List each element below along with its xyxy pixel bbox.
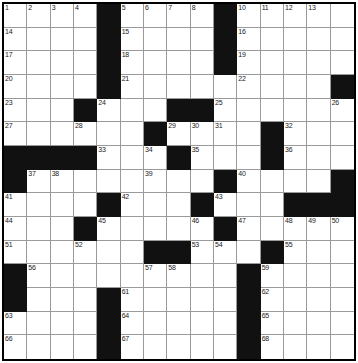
grid-letter-cell[interactable] [237, 241, 260, 265]
grid-letter-cell[interactable] [167, 51, 190, 75]
grid-letter-cell[interactable]: 31 [214, 122, 237, 146]
grid-letter-cell[interactable]: 68 [261, 335, 284, 359]
grid-letter-cell[interactable] [51, 28, 74, 52]
grid-letter-cell[interactable]: 30 [191, 122, 214, 146]
grid-letter-cell[interactable] [74, 335, 97, 359]
grid-letter-cell[interactable]: 13 [307, 4, 330, 28]
grid-letter-cell[interactable] [27, 28, 50, 52]
grid-letter-cell[interactable] [51, 99, 74, 123]
grid-letter-cell[interactable]: 43 [214, 193, 237, 217]
grid-letter-cell[interactable]: 19 [237, 51, 260, 75]
grid-letter-cell[interactable]: 22 [237, 75, 260, 99]
grid-letter-cell[interactable] [27, 335, 50, 359]
grid-letter-cell[interactable]: 44 [4, 217, 27, 241]
grid-letter-cell[interactable] [331, 146, 354, 170]
grid-letter-cell[interactable]: 11 [261, 4, 284, 28]
grid-letter-cell[interactable] [261, 193, 284, 217]
grid-letter-cell[interactable]: 16 [237, 28, 260, 52]
grid-letter-cell[interactable] [167, 28, 190, 52]
grid-letter-cell[interactable] [97, 122, 120, 146]
grid-letter-cell[interactable]: 32 [284, 122, 307, 146]
grid-letter-cell[interactable]: 53 [191, 241, 214, 265]
grid-letter-cell[interactable] [74, 51, 97, 75]
grid-letter-cell[interactable]: 41 [4, 193, 27, 217]
grid-letter-cell[interactable] [27, 312, 50, 336]
grid-letter-cell[interactable] [307, 122, 330, 146]
grid-letter-cell[interactable] [307, 264, 330, 288]
grid-letter-cell[interactable]: 64 [121, 312, 144, 336]
grid-letter-cell[interactable] [144, 217, 167, 241]
grid-letter-cell[interactable] [74, 170, 97, 194]
grid-letter-cell[interactable]: 17 [4, 51, 27, 75]
grid-letter-cell[interactable]: 67 [121, 335, 144, 359]
grid-letter-cell[interactable] [284, 170, 307, 194]
grid-letter-cell[interactable] [331, 264, 354, 288]
grid-letter-cell[interactable]: 6 [144, 4, 167, 28]
grid-letter-cell[interactable]: 36 [284, 146, 307, 170]
grid-letter-cell[interactable] [74, 312, 97, 336]
grid-letter-cell[interactable]: 7 [167, 4, 190, 28]
grid-letter-cell[interactable] [284, 335, 307, 359]
grid-letter-cell[interactable] [144, 28, 167, 52]
grid-letter-cell[interactable] [191, 312, 214, 336]
grid-letter-cell[interactable] [331, 335, 354, 359]
grid-letter-cell[interactable]: 14 [4, 28, 27, 52]
grid-letter-cell[interactable]: 45 [97, 217, 120, 241]
grid-letter-cell[interactable]: 61 [121, 288, 144, 312]
grid-letter-cell[interactable] [27, 122, 50, 146]
grid-letter-cell[interactable] [74, 75, 97, 99]
grid-letter-cell[interactable] [121, 217, 144, 241]
grid-letter-cell[interactable] [307, 28, 330, 52]
grid-letter-cell[interactable] [121, 99, 144, 123]
grid-letter-cell[interactable]: 35 [191, 146, 214, 170]
grid-letter-cell[interactable] [331, 241, 354, 265]
grid-letter-cell[interactable] [121, 122, 144, 146]
grid-letter-cell[interactable] [284, 312, 307, 336]
grid-letter-cell[interactable] [97, 264, 120, 288]
grid-letter-cell[interactable]: 5 [121, 4, 144, 28]
grid-letter-cell[interactable]: 2 [27, 4, 50, 28]
grid-letter-cell[interactable] [307, 75, 330, 99]
grid-letter-cell[interactable]: 28 [74, 122, 97, 146]
grid-letter-cell[interactable]: 39 [144, 170, 167, 194]
grid-letter-cell[interactable] [307, 146, 330, 170]
grid-letter-cell[interactable] [74, 264, 97, 288]
grid-letter-cell[interactable]: 55 [284, 241, 307, 265]
grid-letter-cell[interactable] [284, 28, 307, 52]
grid-letter-cell[interactable]: 42 [121, 193, 144, 217]
grid-letter-cell[interactable]: 1 [4, 4, 27, 28]
grid-letter-cell[interactable] [121, 241, 144, 265]
grid-letter-cell[interactable]: 50 [331, 217, 354, 241]
grid-letter-cell[interactable] [214, 312, 237, 336]
grid-letter-cell[interactable]: 51 [4, 241, 27, 265]
grid-letter-cell[interactable] [51, 335, 74, 359]
grid-letter-cell[interactable] [27, 193, 50, 217]
grid-letter-cell[interactable] [261, 217, 284, 241]
grid-letter-cell[interactable] [51, 217, 74, 241]
grid-letter-cell[interactable] [214, 146, 237, 170]
grid-letter-cell[interactable]: 26 [331, 99, 354, 123]
grid-letter-cell[interactable]: 49 [307, 217, 330, 241]
grid-letter-cell[interactable] [331, 51, 354, 75]
grid-letter-cell[interactable] [144, 51, 167, 75]
grid-letter-cell[interactable]: 23 [4, 99, 27, 123]
grid-letter-cell[interactable] [51, 122, 74, 146]
grid-letter-cell[interactable]: 59 [261, 264, 284, 288]
grid-letter-cell[interactable]: 3 [51, 4, 74, 28]
grid-letter-cell[interactable] [191, 335, 214, 359]
grid-letter-cell[interactable] [167, 288, 190, 312]
grid-letter-cell[interactable] [121, 170, 144, 194]
grid-letter-cell[interactable] [167, 170, 190, 194]
grid-letter-cell[interactable] [307, 99, 330, 123]
grid-letter-cell[interactable] [191, 170, 214, 194]
grid-letter-cell[interactable]: 18 [121, 51, 144, 75]
grid-letter-cell[interactable]: 15 [121, 28, 144, 52]
grid-letter-cell[interactable] [144, 288, 167, 312]
grid-letter-cell[interactable]: 52 [74, 241, 97, 265]
grid-letter-cell[interactable] [74, 193, 97, 217]
grid-letter-cell[interactable]: 27 [4, 122, 27, 146]
grid-letter-cell[interactable]: 25 [214, 99, 237, 123]
grid-letter-cell[interactable] [214, 264, 237, 288]
grid-letter-cell[interactable] [191, 28, 214, 52]
grid-letter-cell[interactable] [51, 264, 74, 288]
